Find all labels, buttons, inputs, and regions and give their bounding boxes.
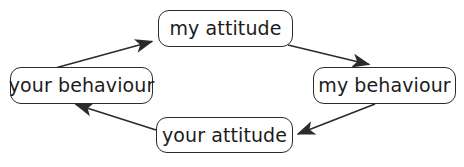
arrow-your-attitude-to-your-behaviour <box>76 105 156 131</box>
node-your-behaviour: your behaviour <box>10 67 153 104</box>
node-your-attitude-label: your attitude <box>162 126 287 145</box>
diagram-canvas: my attitude my behaviour your attitude y… <box>0 0 464 167</box>
node-my-behaviour-label: my behaviour <box>318 76 450 95</box>
node-my-attitude-label: my attitude <box>170 19 282 38</box>
node-my-behaviour: my behaviour <box>313 67 456 104</box>
arrow-my-attitude-to-my-behaviour <box>288 45 369 65</box>
arrow-my-behaviour-to-your-attitude <box>298 104 375 134</box>
node-your-attitude: your attitude <box>156 117 293 153</box>
node-my-attitude: my attitude <box>158 10 293 47</box>
arrow-your-behaviour-to-my-attitude <box>57 42 152 68</box>
node-your-behaviour-label: your behaviour <box>9 76 155 95</box>
